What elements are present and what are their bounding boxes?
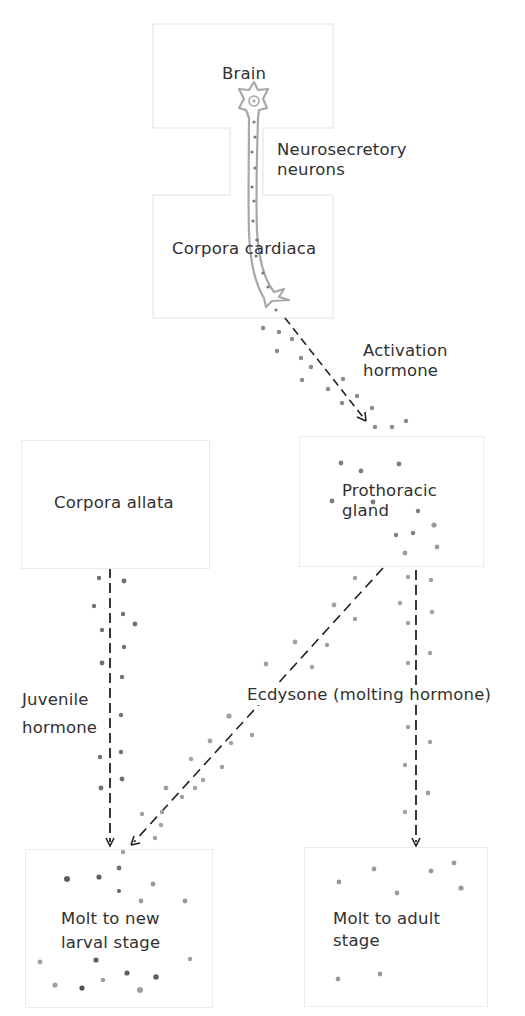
ecdysone-dots [121,575,434,854]
prothoracic-line2: gland [342,501,437,521]
activation-line1: Activation [363,341,448,361]
activation-hormone-arrow [285,318,366,421]
corpora-allata-label: Corpora allata [54,493,174,513]
activation-hormone-label: Activation hormone [363,341,448,381]
adult-line2: stage [333,930,440,952]
adult-line1: Molt to adult [333,908,440,930]
juvenile-hormone-label: Juvenile hormone [22,686,97,742]
ecdysone-larval-arrow [131,568,383,845]
molt-adult-stage-label: Molt to adult stage [333,908,440,952]
corpora-cardiaca-label: Corpora cardiaca [172,239,316,259]
juvenile-hormone-dots [92,576,138,791]
neurosecretory-line1: Neurosecretory [277,140,407,160]
molt-larval-stage-label: Molt to new larval stage [61,907,160,955]
larval-line2: larval stage [61,931,160,955]
ecdysone-adult-arrow [412,570,420,846]
brain-label: Brain [222,64,266,84]
prothoracic-line1: Prothoracic [342,481,437,501]
prothoracic-gland-label: Prothoracic gland [342,481,437,521]
neurosecretory-neurons-label: Neurosecretory neurons [277,140,407,180]
ecdysone-label: Ecdysone (molting hormone) [245,685,493,705]
larval-line1: Molt to new [61,907,160,931]
juvenile-line2: hormone [22,714,97,742]
juvenile-hormone-arrow [106,568,114,846]
neurosecretory-line2: neurons [277,160,407,180]
activation-line2: hormone [363,361,448,381]
juvenile-line1: Juvenile [22,686,97,714]
